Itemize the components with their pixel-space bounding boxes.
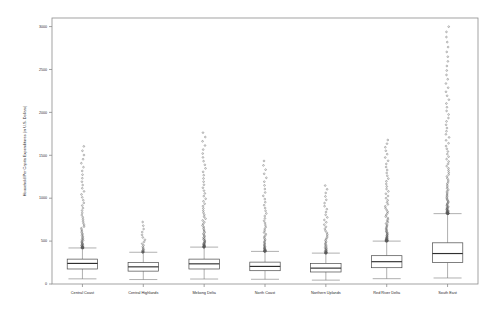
outlier-point <box>387 213 389 215</box>
outlier-point <box>81 212 83 214</box>
outlier-point <box>325 192 327 194</box>
outlier-point <box>385 166 387 168</box>
outlier-point <box>203 181 205 183</box>
outlier-point <box>386 153 388 155</box>
outlier-point <box>385 163 387 165</box>
outlier-point <box>203 212 205 214</box>
outlier-point <box>448 172 450 174</box>
outlier-point <box>385 197 387 199</box>
outlier-point <box>446 121 448 123</box>
outlier-point <box>326 234 328 236</box>
outlier-point <box>265 226 267 228</box>
outlier-point <box>263 220 265 222</box>
outlier-point <box>202 210 204 212</box>
outlier-point <box>82 158 84 160</box>
chart-canvas: 050010001500200025003000 Central CoastCe… <box>0 0 499 309</box>
boxplot-group <box>432 26 462 278</box>
x-tick-label: North Coast <box>255 291 276 295</box>
outlier-point <box>203 190 205 192</box>
outlier-point <box>448 156 450 158</box>
outlier-point <box>385 207 387 209</box>
outlier-point <box>448 117 450 119</box>
outlier-point <box>384 146 386 148</box>
x-tick-label: Red River Delta <box>373 291 401 295</box>
outlier-point <box>446 31 448 33</box>
y-tick-label: 0 <box>45 282 47 286</box>
outlier-point <box>83 154 85 156</box>
outlier-point <box>264 215 266 217</box>
outlier-point <box>204 136 206 138</box>
outlier-point <box>81 205 83 207</box>
outlier-point <box>81 210 83 212</box>
outlier-point <box>326 188 328 190</box>
outlier-point <box>264 207 266 209</box>
outlier-point <box>325 196 327 198</box>
outlier-point <box>386 172 388 174</box>
y-tick-label: 500 <box>41 239 47 243</box>
outlier-point <box>446 103 448 105</box>
boxplot-series <box>67 26 463 280</box>
outlier-point <box>448 167 450 169</box>
outlier-point <box>141 231 143 233</box>
outlier-point <box>445 83 447 85</box>
outlier-point <box>263 232 265 234</box>
outlier-point <box>445 145 447 147</box>
outlier-point <box>265 224 267 226</box>
outlier-point <box>264 198 266 200</box>
outlier-point <box>141 234 143 236</box>
outlier-point <box>202 220 204 222</box>
outlier-point <box>83 222 85 224</box>
outlier-point <box>83 191 85 193</box>
outlier-point <box>447 163 449 165</box>
outlier-point <box>323 224 325 226</box>
outlier-point <box>326 217 328 219</box>
outlier-point <box>446 148 448 150</box>
outlier-point <box>325 211 327 213</box>
outlier-point <box>446 176 448 178</box>
boxplot-group <box>128 221 158 279</box>
outlier-point <box>447 61 449 63</box>
outlier-point <box>386 202 388 204</box>
outlier-point <box>83 166 85 168</box>
outlier-point <box>83 226 85 228</box>
boxplot-group <box>189 132 219 279</box>
outlier-point <box>446 110 448 112</box>
outlier-point <box>325 230 327 232</box>
outlier-point <box>264 192 266 194</box>
outlier-point <box>81 214 83 216</box>
outlier-point <box>82 199 84 201</box>
outlier-point <box>388 191 390 193</box>
outlier-point <box>325 214 327 216</box>
outlier-point <box>202 187 204 189</box>
outlier-point <box>387 160 389 162</box>
outlier-point <box>205 198 207 200</box>
outlier-point <box>387 211 389 213</box>
outlier-point <box>202 149 204 151</box>
y-tick-label: 3000 <box>39 25 47 29</box>
y-tick-label: 1500 <box>39 154 47 158</box>
outlier-point <box>265 213 267 215</box>
outlier-point <box>264 228 266 230</box>
outlier-point <box>83 224 85 226</box>
outlier-point <box>265 210 267 212</box>
x-tick-label: South East <box>438 291 458 295</box>
outlier-point <box>324 228 326 230</box>
outlier-point <box>81 187 83 189</box>
outlier-point <box>143 228 145 230</box>
outlier-point <box>82 216 84 218</box>
outlier-point <box>142 237 144 239</box>
outlier-point <box>445 91 447 93</box>
y-axis-title: Household Per Capita Expenditures (in U.… <box>22 105 27 196</box>
outlier-point <box>202 157 204 159</box>
outlier-point <box>446 95 448 97</box>
outlier-point <box>447 177 449 179</box>
outlier-point <box>448 114 450 116</box>
outlier-point <box>204 214 206 216</box>
boxplot-group <box>311 185 341 280</box>
outlier-point <box>446 36 448 38</box>
outlier-point <box>264 218 266 220</box>
outlier-point <box>446 65 448 67</box>
x-axis-ticks: Central CoastCentral HighlandsMekong Del… <box>71 284 458 295</box>
outlier-point <box>325 199 327 201</box>
outlier-point <box>264 201 266 203</box>
